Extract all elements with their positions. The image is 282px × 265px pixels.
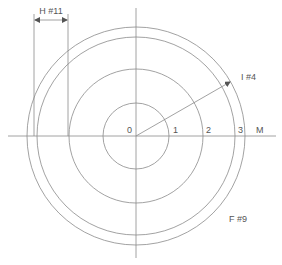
tick-label-1: 1	[173, 125, 178, 135]
concentric-circle-diagram: H #11 I #4 0 1 2 3 M F #9	[0, 0, 282, 265]
radius-arrow-label: I #4	[241, 72, 256, 82]
origin-label: 0	[127, 125, 132, 135]
region-label: F #9	[229, 214, 247, 224]
tick-label-2: 2	[206, 125, 211, 135]
axis-end-label: M	[256, 125, 264, 135]
tick-label-3: 3	[238, 125, 243, 135]
radius-arrow	[136, 82, 230, 136]
dimension-h-label: H #11	[39, 6, 62, 16]
